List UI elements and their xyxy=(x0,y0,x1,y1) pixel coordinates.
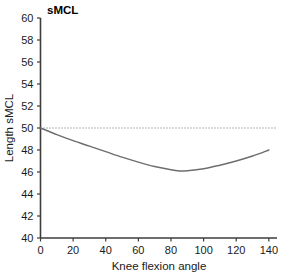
x-tick-label: 120 xyxy=(227,244,245,256)
y-tick-label: 58 xyxy=(21,34,33,46)
chart-figure: sMCL 4042444648505254565860 Length sMCL … xyxy=(0,0,286,278)
x-tick-label: 140 xyxy=(260,244,278,256)
y-tick-label: 48 xyxy=(21,144,33,156)
x-axis-title: Knee flexion angle xyxy=(112,260,207,272)
smcl-length-line-chart: sMCL 4042444648505254565860 Length sMCL … xyxy=(0,0,286,278)
x-tick-label: 100 xyxy=(194,244,212,256)
y-tick-label: 60 xyxy=(21,12,33,24)
x-tick-label: 0 xyxy=(37,244,43,256)
y-tick-label: 56 xyxy=(21,56,33,68)
chart-title: sMCL xyxy=(47,4,78,16)
x-tick-label: 60 xyxy=(132,244,144,256)
y-tick-label: 46 xyxy=(21,166,33,178)
y-tick-label: 40 xyxy=(21,232,33,244)
x-tick-label: 20 xyxy=(67,244,79,256)
y-tick-label: 50 xyxy=(21,122,33,134)
y-tick-label: 52 xyxy=(21,100,33,112)
y-tick-label: 42 xyxy=(21,210,33,222)
x-tick-label: 40 xyxy=(100,244,112,256)
x-tick-label: 80 xyxy=(165,244,177,256)
y-tick-label: 44 xyxy=(21,188,33,200)
y-axis-title: Length sMCL xyxy=(3,93,15,162)
chart-background xyxy=(0,0,286,278)
y-tick-label: 54 xyxy=(21,78,33,90)
